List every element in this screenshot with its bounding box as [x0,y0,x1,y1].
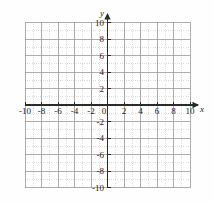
y-axis-tick-label: 6 [100,51,105,61]
y-axis-tick-label: 8 [100,34,105,44]
x-axis-tick-label: -2 [87,106,95,116]
x-axis-tick-label: -10 [19,106,31,116]
x-axis-tick-label: 6 [155,106,160,116]
y-axis-tick-label: -4 [97,133,105,143]
y-axis-tick-label: 4 [100,67,105,77]
y-axis-tick-label: 2 [100,84,105,94]
x-axis-tick-label: 8 [171,106,176,116]
origin-label: 0 [102,106,107,116]
x-axis-name-label: x [199,104,204,114]
y-axis-name-label: y [99,8,104,18]
x-axis-tick-label: 2 [122,106,127,116]
coordinate-plane-figure: -10-8-6-4-20246810108642-2-4-6-8-10 yx [0,0,213,203]
x-axis-tick-label: -4 [71,106,79,116]
y-axis-tick-label: 10 [95,18,105,28]
y-axis-tick-label: -8 [97,166,105,176]
x-axis-tick-label: 10 [186,106,196,116]
x-axis-tick-label: 4 [138,106,143,116]
y-axis-tick-label: -10 [92,183,104,193]
coordinate-grid-svg: -10-8-6-4-20246810108642-2-4-6-8-10 yx [0,0,213,203]
y-axis-tick-label: -6 [97,150,105,160]
x-axis-tick-label: -8 [38,106,46,116]
y-axis-tick-label: -2 [97,117,105,127]
x-axis-tick-label: -6 [54,106,62,116]
